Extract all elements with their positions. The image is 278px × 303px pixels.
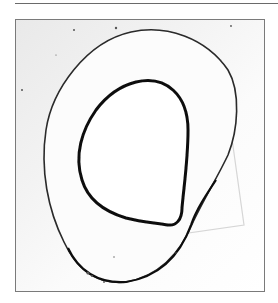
micrograph-image: [16, 20, 265, 292]
micrograph-frame: [15, 19, 265, 292]
top-rule-divider: [15, 3, 278, 4]
